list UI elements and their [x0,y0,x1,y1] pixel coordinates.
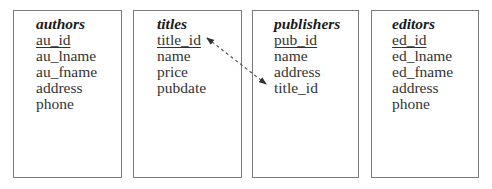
field-pub-id: pub_id [274,32,340,48]
field-phone: phone [36,96,97,112]
field-phone: phone [392,96,453,112]
table-name: editors [392,16,453,32]
field-pubdate: pubdate [157,80,206,96]
table-name: authors [36,16,97,32]
field-ed-fname: ed_fname [392,64,453,80]
field-address: address [36,80,97,96]
field-title-id: title_id [157,32,206,48]
field-price: price [157,64,206,80]
table-editors: editors ed_id ed_lname ed_fname address … [371,10,479,178]
field-name: name [274,48,340,64]
table-name: titles [157,16,206,32]
field-address: address [274,64,340,80]
table-publishers: publishers pub_id name address title_id [252,10,359,178]
table-name: publishers [274,16,340,32]
field-au-id: au_id [36,32,97,48]
field-ed-id: ed_id [392,32,453,48]
field-au-lname: au_lname [36,48,97,64]
field-title-id-fk: title_id [274,80,340,96]
field-au-fname: au_fname [36,64,97,80]
field-ed-lname: ed_lname [392,48,453,64]
table-titles: titles title_id name price pubdate [133,10,242,178]
field-name: name [157,48,206,64]
table-authors: authors au_id au_lname au_fname address … [13,10,122,178]
field-address: address [392,80,453,96]
